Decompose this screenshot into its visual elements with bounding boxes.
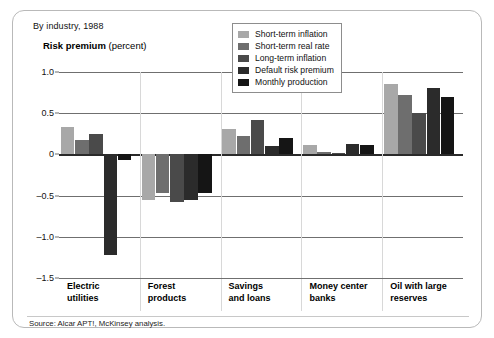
category-separator-lower bbox=[301, 279, 302, 311]
bar bbox=[142, 154, 156, 199]
bar bbox=[441, 97, 455, 155]
bar-group bbox=[301, 72, 382, 278]
category-label-line: Electric bbox=[67, 281, 100, 293]
bar bbox=[198, 154, 212, 193]
legend-label: Short-term real rate bbox=[255, 41, 330, 51]
bar bbox=[303, 145, 317, 154]
bar bbox=[237, 136, 251, 154]
category-labels: ElectricutilitiesForestproductsSavingsan… bbox=[59, 281, 463, 315]
bar bbox=[251, 120, 265, 155]
bar bbox=[317, 152, 331, 154]
bar bbox=[104, 154, 118, 255]
legend-swatch bbox=[238, 79, 249, 86]
category-label-line: and loans bbox=[229, 293, 271, 305]
bar-group bbox=[221, 72, 302, 278]
legend-item: Long-term inflation bbox=[238, 52, 334, 64]
category-label: Forestproducts bbox=[148, 281, 187, 304]
legend-item: Short-term real rate bbox=[238, 40, 334, 52]
bar bbox=[279, 138, 293, 154]
y-tick-label: 1.0 bbox=[41, 67, 54, 77]
chart-subhead: By industry, 1988 bbox=[33, 21, 104, 31]
legend-swatch bbox=[238, 67, 249, 74]
category-label: Oil with largereserves bbox=[390, 281, 447, 304]
source-note: Source: Alcar APT!, McKinsey analysis. bbox=[29, 319, 165, 328]
legend-swatch bbox=[238, 55, 249, 62]
bar bbox=[75, 140, 89, 155]
bar bbox=[89, 134, 103, 155]
category-separator-lower bbox=[382, 279, 383, 311]
y-tick-label: –0.5 bbox=[36, 191, 54, 201]
category-label-line: products bbox=[148, 293, 187, 305]
bar bbox=[118, 154, 132, 160]
chart-axis-title: Risk premium (percent) bbox=[43, 40, 146, 51]
bar bbox=[346, 144, 360, 155]
bar bbox=[156, 154, 170, 193]
category-label: Savingsand loans bbox=[229, 281, 271, 304]
category-label-line: Forest bbox=[148, 281, 187, 293]
category-label-line: reserves bbox=[390, 293, 447, 305]
bar bbox=[222, 129, 236, 155]
legend-item: Default risk premium bbox=[238, 64, 334, 76]
bar bbox=[360, 145, 374, 155]
bar bbox=[61, 127, 75, 154]
axis-title-strong: Risk premium bbox=[43, 40, 106, 51]
bar bbox=[412, 113, 426, 154]
bar bbox=[170, 154, 184, 202]
chart-figure: By industry, 1988 Risk premium (percent)… bbox=[12, 10, 482, 328]
category-label-line: utilities bbox=[67, 293, 100, 305]
category-separator-lower bbox=[221, 279, 222, 311]
legend-label: Long-term inflation bbox=[255, 53, 326, 63]
y-tick-label: –1.0 bbox=[36, 232, 54, 242]
category-separator-lower bbox=[140, 279, 141, 311]
gridline--1-5 bbox=[59, 278, 463, 279]
category-label-line: Oil with large bbox=[390, 281, 447, 293]
bar bbox=[398, 95, 412, 154]
y-tick-label: 0 bbox=[49, 149, 54, 159]
legend-label: Default risk premium bbox=[255, 65, 334, 75]
category-label: Electricutilities bbox=[67, 281, 100, 304]
category-label-line: Money center bbox=[309, 281, 367, 293]
legend-label: Short-term inflation bbox=[255, 29, 328, 39]
category-label-line: banks bbox=[309, 293, 367, 305]
bar-group bbox=[140, 72, 221, 278]
legend-label: Monthly production bbox=[255, 77, 328, 87]
legend-swatch bbox=[238, 43, 249, 50]
bar bbox=[427, 88, 441, 154]
axis-title-unit: (percent) bbox=[108, 40, 146, 51]
y-tick-label: 0.5 bbox=[41, 108, 54, 118]
legend-item: Monthly production bbox=[238, 76, 334, 88]
plot-area: 1.00.50–0.5–1.0–1.5 bbox=[59, 72, 463, 278]
category-label-line: Savings bbox=[229, 281, 271, 293]
category-label: Money centerbanks bbox=[309, 281, 367, 304]
chart-legend: Short-term inflationShort-term real rate… bbox=[232, 23, 342, 93]
bar-group bbox=[382, 72, 463, 278]
bar bbox=[384, 84, 398, 154]
bar bbox=[332, 153, 346, 155]
footer-divider bbox=[27, 316, 469, 317]
legend-swatch bbox=[238, 31, 249, 38]
bar bbox=[265, 146, 279, 154]
legend-item: Short-term inflation bbox=[238, 28, 334, 40]
bar bbox=[184, 154, 198, 199]
y-tick-label: –1.5 bbox=[36, 273, 54, 283]
bar-group bbox=[59, 72, 140, 278]
